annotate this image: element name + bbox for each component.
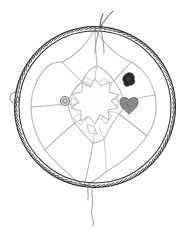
braid-rung [73,184,81,185]
web-netting [31,29,156,186]
charm-heart [120,98,138,114]
braid-rung [18,85,19,93]
braid-rung [172,116,173,124]
dreamcatcher-illustration: Dreamcatcher dreamcatcher hand-drawn lin… [0,0,187,234]
braid-rung [104,28,112,29]
braid-rung [109,30,117,31]
braid-rung [16,90,17,98]
thread-tail-bottom [88,186,94,226]
dreamcatcher-canvas [0,0,187,234]
charm-flower-bead [123,73,135,86]
charm-round-bead [60,96,69,105]
braid-rung [172,121,173,129]
